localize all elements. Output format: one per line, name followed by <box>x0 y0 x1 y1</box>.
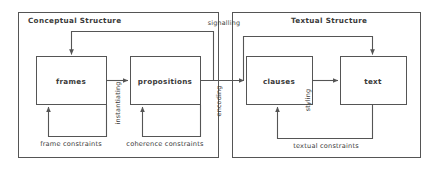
arrow-coherence-constraints <box>143 105 201 137</box>
edge-label-signalling: signalling <box>208 19 241 27</box>
edge-label-encoding: encoding <box>215 86 223 117</box>
edge-label-styling: styling <box>304 89 312 112</box>
diagram-canvas: Conceptual Structure Textual Structure f… <box>0 0 436 169</box>
constraint-label-coherence-constraints: coherence constraints <box>126 140 203 148</box>
box-label-frames: frames <box>56 77 86 86</box>
group-border-textual <box>233 13 421 158</box>
box-label-clauses: clauses <box>263 77 295 86</box>
arrow-textual-constraints <box>278 105 373 139</box>
arrow-frame-constraints <box>49 105 107 137</box>
constraint-label-textual-constraints: textual constraints <box>293 142 359 150</box>
arrow-textual-feedback <box>244 37 373 81</box>
edge-label-instantiating: instantiating <box>114 82 122 125</box>
group-title-textual-structure: Textual Structure <box>291 16 367 25</box>
box-label-text: text <box>364 77 382 86</box>
box-label-propositions: propositions <box>138 77 192 86</box>
group-title-conceptual-structure: Conceptual Structure <box>28 16 122 25</box>
constraint-label-frame-constraints: frame constraints <box>40 140 102 148</box>
